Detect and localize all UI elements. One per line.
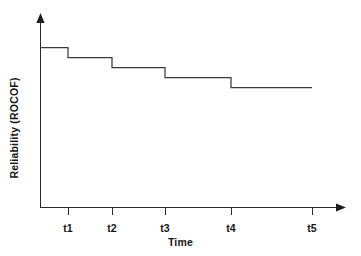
x-tick-label-t5: t5 [292, 222, 332, 234]
y-axis-arrow-icon [36, 13, 44, 23]
x-tick-label-t1: t1 [48, 222, 88, 234]
x-axis-title: Time [0, 236, 361, 248]
x-tick-label-t2: t2 [92, 222, 132, 234]
chart-container: t1 t2 t3 t4 t5 Time Reliability (ROCOF) [0, 0, 361, 256]
data-series-rocof-step-line [40, 48, 312, 88]
chart-plot-area [0, 0, 361, 256]
x-tick-label-t3: t3 [145, 222, 185, 234]
x-tick-label-t4: t4 [211, 222, 251, 234]
x-axis-arrow-icon [336, 203, 346, 211]
